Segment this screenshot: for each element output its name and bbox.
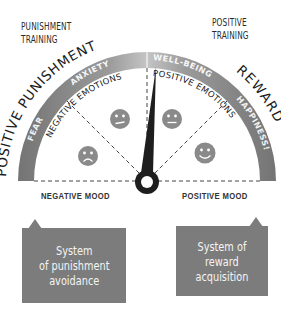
left-divider: [67, 101, 139, 173]
positive-mood-label: POSITIVE MOOD: [182, 191, 248, 201]
reward-acquisition-box: System of reward acquisition: [176, 226, 268, 296]
punishment-avoidance-text: System of punishment avoidance: [39, 243, 110, 288]
worried-face-icon: [110, 109, 130, 129]
gauge-needle: [135, 67, 159, 194]
negative-mood-label: NEGATIVE MOOD: [41, 191, 110, 201]
reward-acquisition-text: System of reward acquisition: [196, 239, 249, 284]
happy-face-icon: [195, 143, 216, 164]
sad-face-icon: [78, 146, 98, 166]
neutral-face-icon: [162, 109, 182, 129]
punishment-avoidance-box: System of punishment avoidance: [22, 228, 126, 303]
